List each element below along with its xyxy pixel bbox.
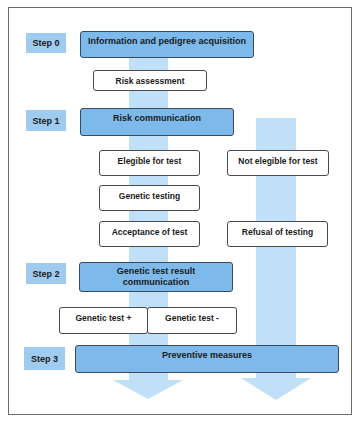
acceptance-of-test-box: Acceptance of test: [99, 221, 200, 247]
risk-communication-box: Risk communication: [80, 108, 234, 136]
step-2-label: Step 2: [26, 263, 66, 284]
eligible-for-test-box: Elegible for test: [99, 150, 200, 176]
preventive-measures-box: Preventive measures: [75, 345, 339, 373]
step-0-label: Step 0: [26, 33, 66, 53]
genetic-test-result-communication-box: Genetic test result communication: [79, 262, 233, 292]
genetic-test-negative-box: Genetic test -: [147, 307, 237, 334]
refusal-of-testing-box: Refusal of testing: [227, 221, 328, 247]
genetic-testing-box: Genetic testing: [99, 185, 200, 211]
not-eligible-for-test-box: Not elegible for test: [227, 150, 329, 176]
step-3-label: Step 3: [24, 347, 65, 370]
risk-assessment-box: Risk assessment: [93, 70, 207, 91]
genetic-test-positive-box: Genetic test +: [59, 307, 148, 334]
information-pedigree-acquisition-box: Information and pedigree acquisition: [80, 31, 254, 58]
step-1-label: Step 1: [26, 110, 66, 131]
